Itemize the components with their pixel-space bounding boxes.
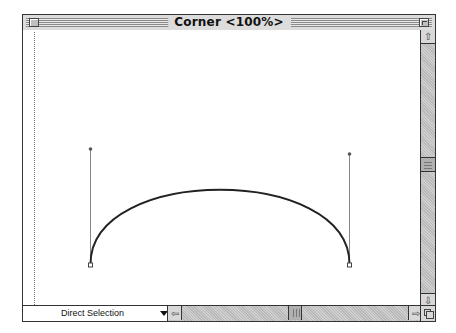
title-bar-stripes-right bbox=[291, 18, 432, 27]
resize-grow-box-icon[interactable] bbox=[420, 306, 435, 321]
title-bar[interactable]: Corner <100%> bbox=[23, 15, 435, 31]
window-title: Corner <100%> bbox=[168, 15, 290, 30]
curve-path[interactable] bbox=[91, 190, 350, 264]
right-direction-point[interactable] bbox=[348, 152, 352, 156]
bottom-bar: Direct Selection ⇦ ⇨ bbox=[23, 305, 435, 321]
arrow-up-icon[interactable]: ⇧ bbox=[421, 30, 435, 44]
left-anchor-point[interactable] bbox=[89, 263, 93, 267]
title-bar-stripes-left bbox=[26, 18, 169, 27]
horizontal-scrollbar[interactable]: ⇦ ⇨ bbox=[167, 306, 422, 321]
vertical-scroll-thumb[interactable] bbox=[421, 157, 435, 172]
horizontal-scroll-thumb[interactable] bbox=[288, 306, 302, 320]
right-anchor-point[interactable] bbox=[348, 263, 352, 267]
arrow-left-icon[interactable]: ⇦ bbox=[168, 306, 182, 320]
status-tool-label: Direct Selection bbox=[61, 306, 124, 321]
vertical-scrollbar[interactable]: ⇧ ⇩ bbox=[420, 30, 435, 307]
close-box-icon[interactable] bbox=[29, 18, 39, 27]
left-direction-point[interactable] bbox=[89, 147, 93, 151]
artboard-canvas[interactable] bbox=[23, 30, 421, 306]
status-tool-popup[interactable]: Direct Selection bbox=[23, 306, 167, 321]
artwork-svg bbox=[23, 30, 421, 306]
document-window: Corner <100%> ⇧ ⇩ Direct Selection ⇦ ⇨ bbox=[22, 14, 436, 322]
zoom-box-icon[interactable] bbox=[419, 18, 429, 27]
